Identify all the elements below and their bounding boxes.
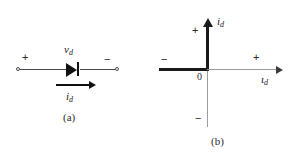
axis-sign-x-positive: +	[253, 52, 259, 63]
current-arrow-shaft	[56, 84, 90, 86]
wire-left-segment	[20, 69, 66, 70]
caption-a: (a)	[63, 112, 75, 123]
caption-b: (b)	[211, 136, 224, 147]
axis-sign-x-negative: −	[161, 54, 167, 65]
axis-vertical-negative	[207, 71, 208, 127]
axis-label-vd: ιd	[261, 74, 268, 87]
axis-vertical-positive	[206, 27, 209, 71]
right-terminal-node	[115, 67, 119, 71]
voltage-label-subscript: d	[69, 48, 73, 57]
panel-b-iv-characteristic: id ιd + − − + 0 (b)	[147, 0, 295, 155]
current-label-id: id	[66, 91, 73, 104]
axis-horizontal-positive	[207, 69, 277, 70]
axis-vertical-arrowhead-icon	[203, 18, 213, 27]
axis-horizontal-arrowhead-icon	[276, 66, 283, 74]
current-label-subscript: d	[69, 95, 73, 104]
terminal-minus-sign: −	[104, 54, 110, 65]
axis-label-id-subscript: d	[220, 20, 224, 29]
wire-right-segment	[80, 69, 115, 70]
axis-sign-y-positive: +	[192, 25, 198, 36]
axis-label-id: id	[217, 16, 224, 29]
axis-sign-y-negative: −	[195, 113, 201, 124]
panel-a-diode-circuit: + − vd id (a)	[0, 0, 148, 155]
terminal-plus-sign: +	[22, 52, 28, 63]
voltage-label-vd: vd	[64, 44, 73, 57]
diode-cathode-bar-icon	[77, 62, 79, 76]
figure-diode-ideal: + − vd id (a) id ιd	[0, 0, 295, 155]
axis-label-vd-subscript: d	[264, 78, 268, 87]
current-arrow-head-icon	[89, 81, 96, 89]
origin-label: 0	[197, 72, 202, 82]
diode-triangle-icon	[66, 63, 77, 77]
